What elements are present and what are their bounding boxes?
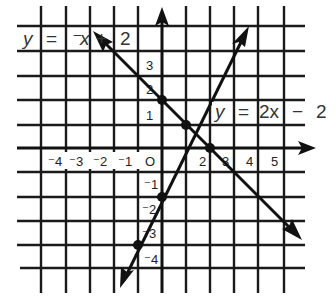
eq2-y: y — [213, 101, 226, 122]
eq1-const: 2 — [120, 28, 131, 49]
equation-label-1: y = ⁻x + 2 — [19, 28, 136, 49]
point--1--4 — [133, 240, 143, 250]
point-2-0 — [205, 143, 215, 153]
eq1-plus: + — [96, 28, 107, 49]
x-tick-origin: O — [145, 154, 155, 169]
eq2-equals: = — [238, 101, 249, 122]
y-tick-1: 1 — [146, 108, 153, 123]
eq2-2x: 2x — [259, 101, 280, 122]
eq1-y: y — [21, 28, 34, 49]
eq2-const: 2 — [316, 101, 327, 122]
x-tick-4: 4 — [246, 154, 253, 169]
y-tick--1: ⁻1 — [144, 177, 158, 192]
x-tick--1: ⁻1 — [118, 154, 132, 169]
coordinate-graph: ⁻4 ⁻3 ⁻2 ⁻1 O 2 3 4 5 3 2 1 ⁻1 ⁻2 ⁻3 ⁻4 — [0, 0, 336, 303]
x-tick-5: 5 — [271, 154, 278, 169]
x-tick--2: ⁻2 — [93, 154, 107, 169]
y-tick--2: ⁻2 — [142, 202, 156, 217]
point-0--2 — [157, 192, 167, 202]
line2-arrow-lower-icon — [120, 267, 134, 288]
y-tick--4: ⁻4 — [144, 252, 158, 267]
y-tick-3: 3 — [146, 58, 153, 73]
eq1-negx: ⁻x — [70, 28, 91, 49]
point-0-2 — [157, 95, 167, 105]
x-tick--4: ⁻4 — [48, 154, 62, 169]
eq1-equals: = — [46, 28, 57, 49]
eq2-minus: − — [292, 101, 303, 122]
point-1-1 — [181, 120, 191, 130]
x-tick--3: ⁻3 — [69, 154, 83, 169]
equation-label-2: y = 2x − 2 — [212, 101, 336, 122]
x-tick-2: 2 — [199, 154, 206, 169]
line-y-neg-x-plus-2 — [93, 31, 302, 240]
